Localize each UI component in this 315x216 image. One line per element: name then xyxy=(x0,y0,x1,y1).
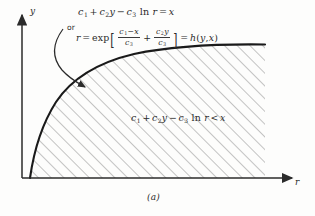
figure-canvas xyxy=(0,0,315,216)
hatched-region xyxy=(22,40,272,180)
figure-container: c1+c2y−c3 ln r=x or r=exp[c1−xc3+c2yc3]=… xyxy=(0,0,315,216)
